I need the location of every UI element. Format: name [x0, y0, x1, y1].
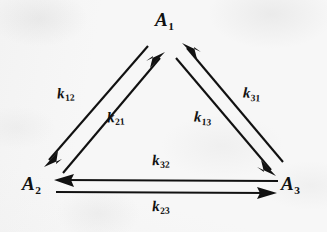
arrowhead-k12	[44, 151, 62, 167]
node-a2-symbol: A	[22, 173, 35, 194]
arrow-line-k31	[187, 48, 283, 162]
rate-k23-subscript: 23	[160, 205, 170, 216]
arrow-line-k12	[49, 46, 148, 160]
rate-label-k12: k12	[57, 86, 75, 102]
arrow-line-k13	[176, 58, 271, 170]
rate-k21-subscript: 21	[115, 115, 125, 126]
rate-k32-symbol: k	[152, 152, 160, 168]
arrow-line-k32	[62, 180, 278, 181]
arrowhead-k13	[257, 160, 276, 176]
rate-label-k31: k31	[243, 86, 261, 102]
rate-label-k21: k21	[107, 110, 125, 126]
arrow-line-k23	[56, 192, 268, 193]
rate-k13-subscript: 13	[201, 116, 211, 127]
rate-label-k13: k13	[194, 110, 212, 126]
node-a3-symbol: A	[281, 173, 294, 194]
rate-label-k32: k32	[152, 153, 170, 169]
rate-k21-symbol: k	[107, 109, 115, 125]
arrowhead-k32	[54, 174, 74, 187]
node-label-a2: A2	[22, 174, 41, 193]
rate-k12-symbol: k	[57, 85, 65, 101]
node-a2-subscript: 2	[35, 184, 41, 196]
arrowhead-k21	[146, 52, 165, 68]
rate-k32-subscript: 32	[160, 159, 170, 170]
arrowhead-k23	[257, 187, 277, 199]
node-label-a3: A3	[281, 174, 300, 193]
rate-k12-subscript: 12	[65, 91, 75, 102]
rate-k31-subscript: 31	[250, 92, 260, 103]
diagram-canvas	[0, 0, 327, 232]
rate-label-k23: k23	[152, 199, 170, 215]
node-a1-symbol: A	[155, 9, 168, 30]
arrowhead-k31	[182, 43, 201, 59]
rate-k23-symbol: k	[152, 198, 160, 214]
node-label-a1: A1	[155, 10, 174, 29]
kinetic-scheme-figure: A1 A2 A3 k12 k21 k31 k13 k32 k23	[0, 0, 327, 232]
node-a3-subscript: 3	[294, 184, 300, 196]
node-a1-subscript: 1	[168, 20, 174, 32]
